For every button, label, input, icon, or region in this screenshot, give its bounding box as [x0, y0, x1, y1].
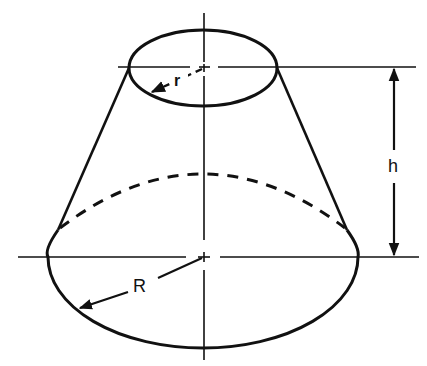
frustum-diagram: r R h — [0, 0, 427, 366]
bottom-radius-label: R — [133, 276, 146, 296]
bottom-ellipse-hidden-arc — [60, 174, 345, 228]
height-label: h — [388, 156, 398, 176]
top-radius-label: r — [174, 72, 180, 89]
top-ellipse — [129, 30, 277, 106]
bottom-ellipse-visible-arc — [47, 230, 358, 348]
